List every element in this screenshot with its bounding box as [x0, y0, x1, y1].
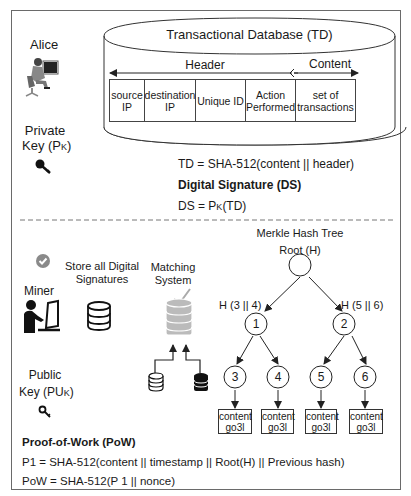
merkle-title: Merkle Hash Tree	[255, 226, 345, 240]
matching-system-label: MatchingSystem	[148, 261, 198, 287]
p1-formula: P1 = SHA-512(content || timestamp || Roo…	[22, 455, 344, 469]
field-destination-ip: destinationIP	[145, 80, 196, 121]
td-formula: TD = SHA-512(content || header)	[178, 157, 354, 171]
field-action-performed: ActionPerformed	[246, 80, 296, 121]
merkle-leaf-3: contentgo3l	[305, 409, 337, 434]
key-icon	[36, 160, 51, 174]
alice-label: Alice	[30, 38, 58, 52]
header-label: Header	[170, 58, 240, 72]
field-unique-id: Unique ID	[196, 80, 246, 121]
ds-title: Digital Signature (DS)	[178, 178, 301, 192]
merkle-node-5-label: 5	[310, 366, 332, 388]
miner-label: Miner	[24, 284, 54, 298]
key-outline-icon	[40, 407, 51, 418]
merkle-leaf-1: contentgo3l	[218, 409, 252, 434]
field-set-of-transactions: set oftransactions	[296, 80, 355, 121]
merkle-right-hash: H (5 || 6)	[341, 298, 383, 312]
merkle-node-3-label: 3	[224, 366, 246, 388]
database-title: Transactional Database (TD)	[104, 28, 395, 42]
merkle-left-hash: H (3 || 4)	[219, 298, 261, 312]
merkle-node-2-label: 2	[333, 313, 355, 335]
private-key-label-line2: Key (PK)	[22, 139, 71, 154]
database-fields-row: sourceIP destinationIP Unique ID ActionP…	[109, 79, 356, 122]
merkle-leaf-4: contentgo3l	[349, 409, 383, 434]
merkle-leaf-2: contentgo3l	[261, 409, 294, 434]
ds-formula: DS = PK(TD)	[178, 199, 246, 214]
person-at-laptop-icon	[24, 300, 60, 333]
matching-connectors	[155, 345, 200, 373]
pow-formula: PoW = SHA-512(P 1 || nonce)	[22, 474, 175, 488]
merkle-node-1-label: 1	[245, 313, 267, 335]
check-badge-icon	[36, 254, 50, 268]
database-icon	[88, 302, 110, 330]
public-key-label-line2: Key (PUK)	[19, 385, 74, 400]
merkle-edges	[235, 277, 366, 408]
store-label: Store all DigitalSignatures	[62, 260, 142, 286]
small-database-solid-icon	[194, 373, 208, 391]
merkle-node-6-label: 6	[354, 366, 376, 388]
merkle-node-4-label: 4	[267, 366, 289, 388]
small-database-outline-icon	[149, 373, 163, 391]
merkle-root-label: Root (H)	[275, 243, 325, 257]
field-source-ip: sourceIP	[110, 80, 145, 121]
person-at-computer-icon	[26, 58, 58, 96]
merkle-root-node	[289, 254, 311, 276]
content-label: Content	[300, 57, 360, 71]
pow-title: Proof-of-Work (PoW)	[22, 435, 135, 449]
database-check-icon	[166, 289, 192, 335]
public-key-label-line1: Public	[20, 368, 70, 382]
private-key-label-line1: Private	[20, 124, 70, 138]
